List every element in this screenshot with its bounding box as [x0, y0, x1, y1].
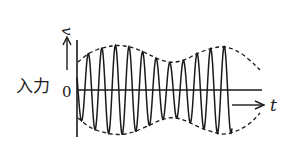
input-label: 入力: [16, 76, 50, 96]
y-axis-label: v: [58, 27, 76, 36]
zero-label: 0: [62, 83, 72, 101]
right-arrow-icon: [232, 101, 264, 109]
diagram-canvas: v t 0 入力: [0, 0, 292, 149]
x-axis-label: t: [270, 95, 277, 115]
envelope-bottom-dashed: [78, 113, 260, 135]
modulated-wave-diagram: v t 0 入力: [0, 0, 292, 149]
up-arrow-icon: [63, 37, 71, 70]
